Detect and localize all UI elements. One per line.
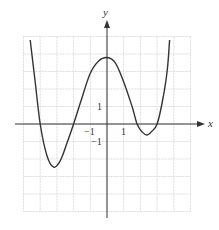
y-tick-label-neg1: −1 xyxy=(91,137,102,147)
x-axis-label: x xyxy=(208,118,213,128)
x-tick-label-1: 1 xyxy=(121,127,126,137)
y-axis-label: y xyxy=(103,7,108,17)
function-graph xyxy=(0,0,219,230)
x-axis-arrow-icon xyxy=(197,121,205,127)
y-axis-arrow-icon xyxy=(104,20,110,28)
axes xyxy=(15,20,205,218)
y-tick-label-1: 1 xyxy=(97,102,102,112)
